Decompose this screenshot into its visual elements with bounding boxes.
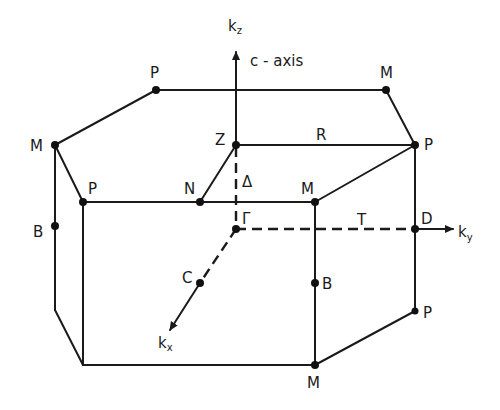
point-gamma	[232, 225, 240, 233]
label-b-left: B	[33, 223, 43, 241]
point-m-bottom	[311, 361, 319, 369]
point-m-front	[311, 198, 319, 206]
label-gamma: Γ	[242, 210, 251, 228]
label-r: R	[316, 126, 326, 144]
point-p-top-back	[152, 86, 160, 94]
label-p-right: P	[424, 136, 433, 154]
label-d: D	[421, 210, 433, 228]
c-axis-label: c - axis	[250, 52, 303, 70]
point-z	[232, 141, 240, 149]
label-p-lower-right: P	[423, 304, 432, 322]
label-m-top-back: M	[380, 64, 393, 82]
side-edges	[55, 145, 415, 365]
label-n: N	[184, 180, 195, 198]
point-n	[196, 198, 204, 206]
labels: kz c - axis ky kx P M M Z R P P N Δ M Γ …	[30, 17, 473, 392]
kx-axis-arrow	[170, 283, 200, 330]
point-m-left	[51, 141, 59, 149]
label-t: T	[356, 211, 367, 229]
label-c: C	[182, 269, 192, 287]
point-p-front-left	[79, 198, 87, 206]
kz-label: kz	[228, 17, 242, 36]
label-p-top-back: P	[150, 64, 159, 82]
kx-label: kx	[158, 334, 173, 353]
point-b-front	[311, 279, 319, 287]
gamma-c-dashed-line	[200, 229, 236, 283]
point-m-top-back	[382, 86, 390, 94]
ky-label: ky	[458, 223, 473, 243]
point-d	[411, 225, 419, 233]
label-z: Z	[215, 131, 225, 149]
z-n-line	[200, 145, 236, 202]
label-b-front: B	[322, 275, 332, 293]
label-m-left: M	[30, 137, 43, 155]
hexagonal-brillouin-zone-diagram: kz c - axis ky kx P M M Z R P P N Δ M Γ …	[0, 0, 500, 410]
label-p-front-left: P	[88, 180, 97, 198]
point-p-lower-right	[412, 308, 419, 315]
label-m-bottom: M	[307, 374, 320, 392]
label-m-front: M	[301, 180, 314, 198]
point-b-left	[51, 222, 59, 230]
label-delta: Δ	[242, 173, 253, 191]
point-p-right	[411, 141, 419, 149]
point-c	[196, 279, 204, 287]
